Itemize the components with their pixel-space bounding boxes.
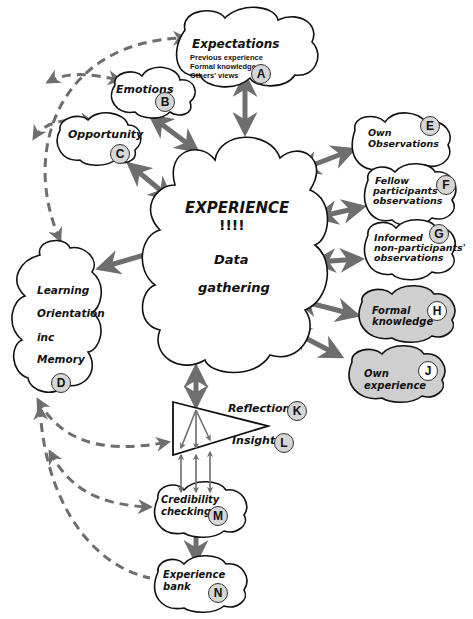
experience-bank-line-1: Experience bbox=[163, 569, 225, 580]
center-line2: gathering bbox=[198, 281, 270, 295]
center-title: EXPERIENCE bbox=[185, 200, 289, 217]
badge-a: A bbox=[251, 64, 271, 84]
badge-b: B bbox=[155, 92, 175, 112]
badge-g: G bbox=[429, 224, 449, 244]
badge-l: L bbox=[274, 433, 294, 453]
own-observations-line-2: Observations bbox=[368, 139, 439, 149]
experience-bank-line-2: bank bbox=[163, 581, 191, 592]
badge-d: D bbox=[51, 373, 71, 393]
fellow-line-3: observations bbox=[373, 196, 442, 206]
reflection-title: Reflection bbox=[228, 403, 290, 415]
badge-h: H bbox=[427, 301, 447, 321]
informed-line-3: observations bbox=[374, 253, 443, 263]
opportunity-title: Opportunity bbox=[68, 129, 143, 141]
own-experience-line-1: Own bbox=[364, 368, 389, 379]
own-experience-line-2: experience bbox=[364, 380, 426, 391]
expectations-line-2: Formal knowledge bbox=[190, 62, 256, 71]
credibility-line-1: Credibility bbox=[161, 494, 219, 505]
formal-knowledge-line-1: Formal bbox=[372, 305, 410, 316]
learning-line-2: Orientation bbox=[37, 308, 105, 320]
expectations-title: Expectations bbox=[192, 38, 279, 51]
expectations-line-3: Others' views bbox=[190, 71, 238, 80]
learning-line-4: Memory bbox=[37, 354, 85, 366]
credibility-line-2: checking bbox=[161, 506, 211, 517]
badge-e: E bbox=[420, 116, 440, 136]
badge-c: C bbox=[110, 144, 130, 164]
learning-line-1: Learning bbox=[37, 285, 89, 297]
learning-line-3: inc bbox=[37, 332, 54, 344]
badge-k: K bbox=[287, 401, 307, 421]
formal-knowledge-line-2: knowledge bbox=[372, 316, 433, 327]
center-exclaim: !!!! bbox=[219, 218, 245, 233]
badge-j: J bbox=[418, 361, 438, 381]
expectations-line-1: Previous experience bbox=[190, 53, 263, 62]
insight-title: Insight bbox=[232, 435, 275, 447]
center-line1: Data bbox=[214, 253, 249, 267]
own-observations-line-1: Own bbox=[368, 128, 392, 138]
badge-n: N bbox=[208, 583, 228, 603]
badge-m: M bbox=[208, 506, 228, 526]
badge-f: F bbox=[436, 175, 456, 195]
